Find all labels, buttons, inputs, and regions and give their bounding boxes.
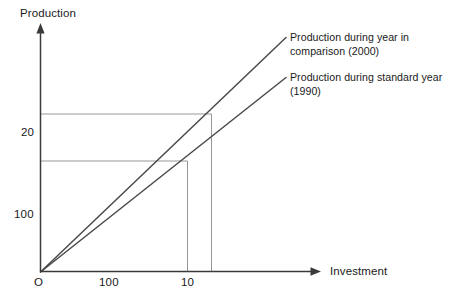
series-annotation-standard-1990: Production during standard year (1990) [290, 71, 442, 99]
y-tick-label-upper: 20 [21, 126, 34, 140]
x-axis-title: Investment [330, 265, 387, 279]
x-axis-arrow-icon [311, 267, 322, 275]
data-series [41, 38, 287, 273]
series-line-comparison-2000 [41, 38, 287, 273]
series-annotation-standard-line2: (1990) [290, 85, 442, 99]
y-tick-label-lower: 100 [14, 208, 34, 222]
series-annotation-comparison-line2: comparison (2000) [290, 45, 409, 59]
series-line-standard-1990 [41, 78, 287, 273]
y-axis-title: Production [20, 7, 76, 21]
x-tick-label-right: 10 [181, 276, 194, 290]
y-axis [36, 23, 44, 272]
production-investment-chart: Production Investment 20 100 O 100 10 Pr… [0, 0, 456, 303]
x-tick-label-origin: O [34, 276, 43, 290]
series-annotation-standard-line1: Production during standard year [290, 71, 442, 85]
series-annotation-comparison-line1: Production during year in [290, 31, 409, 45]
y-axis-arrow-icon [36, 23, 44, 34]
x-tick-label-mid: 100 [99, 276, 119, 290]
x-axis [41, 267, 322, 275]
series-annotation-comparison-2000: Production during year in comparison (20… [290, 31, 409, 59]
